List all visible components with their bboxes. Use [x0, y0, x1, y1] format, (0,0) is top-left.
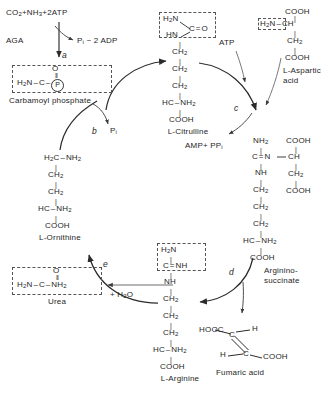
ornithine-alpha-carbon: HC – NH2 — [38, 204, 72, 216]
arginine-carboxyl: COOH — [160, 362, 185, 372]
fumarate-h-left: H — [220, 350, 226, 360]
arginine-label: L-Arginine — [145, 374, 215, 383]
citrulline-ch2-2: CH2 — [172, 64, 188, 76]
citrulline-carboxyl: COOH — [169, 115, 194, 125]
argsucc-nh2: NH2 — [253, 136, 269, 148]
argsucc-ch2-r: CH2 — [288, 169, 304, 181]
arginine-ch2-1: CH2 — [163, 294, 179, 306]
cofactor-aga-label: AGA — [6, 36, 24, 45]
ornithine-ch2-1: CH2 — [48, 170, 64, 182]
arginine-ch2-3: CH2 — [163, 328, 179, 340]
aspartate-label-line2: acid — [283, 76, 298, 85]
fumarate-carbon-upper: C — [229, 330, 235, 340]
ornithine-ch2-2: CH2 — [48, 187, 64, 199]
argsucc-ch: CH — [288, 152, 300, 162]
citrulline-ch2-3: CH2 — [172, 81, 188, 93]
argsucc-ch2-2: CH2 — [253, 202, 269, 214]
water-label: + H2O — [110, 290, 133, 299]
step-b-label: b — [92, 126, 97, 136]
citrulline-label: L-Citrulline — [153, 127, 223, 136]
aspartate-ch2: CH2 — [287, 36, 303, 48]
argsucc-carboxyl-bottom: COOH — [286, 186, 311, 196]
aspartate-carboxyl-bottom: COOH — [285, 53, 310, 63]
carbamoyl-phosphate-formula: H2N – C – P — [17, 78, 64, 92]
argsucc-alpha-carbon: HC – NH2 — [243, 236, 277, 248]
substrates-top: CO2+NH3+2ATPCO2+NH3+2ATP — [6, 8, 67, 17]
argsucc-carboxyl-alpha: COOH — [250, 253, 275, 263]
citrulline-imino-head: HN — [166, 30, 178, 40]
aspartate-carboxyl-top: COOH — [285, 7, 310, 17]
step-e-label: e — [103, 259, 108, 269]
aspartate-amino-group: H2N – CH — [260, 19, 294, 31]
phosphate-circle-icon: P — [51, 79, 64, 92]
arginine-ch2-2: CH2 — [163, 311, 179, 323]
argsucc-nh: NH — [255, 168, 267, 178]
aspartate-label-line1: L-Aspartic — [283, 66, 321, 75]
arginine-nh: NH — [164, 277, 176, 287]
arginine-alpha-carbon: HC – NH2 — [153, 345, 187, 357]
urea-cycle-diagram: CO2+NH3+2ATPCO2+NH3+2ATP AGA Pi ~ 2 ADP … — [0, 0, 329, 405]
aspartate-bond-1: | — [294, 15, 296, 22]
citrulline-alpha-carbon: HC – NH2 — [162, 98, 196, 110]
argsucc-guanidino: C = N — [252, 152, 271, 162]
step-a-label: a — [62, 50, 67, 60]
ornithine-carboxyl: COOH — [45, 221, 70, 231]
citrulline-amino-head: H2N — [163, 14, 179, 26]
pi-release-label: Pi — [110, 126, 117, 135]
fumarate-cooh-right: COOH — [263, 352, 288, 362]
step-c-label: c — [234, 103, 238, 113]
ornithine-label: L-Ornithine — [24, 233, 96, 242]
urea-label: Urea — [22, 297, 92, 306]
carbamoyl-phosphate-label: Carbamoyl phosphate — [9, 96, 91, 105]
argsucc-ch2-1: CH2 — [253, 185, 269, 197]
urea-formula: H2N – C – NH2 — [17, 280, 67, 292]
amp-ppi-label: AMP+ PPi — [185, 141, 223, 150]
arginine-h2n: H2N — [161, 245, 177, 257]
step-d-label: d — [229, 267, 234, 277]
fumarate-label: Fumaric acid — [216, 368, 264, 377]
argsucc-carboxyl-top: COOH — [286, 136, 311, 146]
citrulline-carbonyl: C = O — [189, 24, 208, 34]
argsucc-ch2-3: CH2 — [253, 219, 269, 231]
fumarate-h-right: H — [252, 324, 258, 334]
argsucc-label-line1: Arginino- — [264, 266, 298, 275]
argsucc-label-line2: succinate — [264, 276, 300, 285]
fumarate-carbon-lower: C — [243, 349, 249, 359]
ornithine-terminal-amine: H2C – NH2 — [44, 153, 81, 165]
byproduct-pi-adp-label: Pi ~ 2 ADP — [77, 36, 118, 45]
citrulline-ch2-1: CH2 — [172, 47, 188, 59]
atp-label: ATP — [219, 38, 235, 47]
arginine-c-nh: C = NH — [163, 261, 188, 271]
fumarate-hooc-left: HOOC — [199, 325, 224, 335]
